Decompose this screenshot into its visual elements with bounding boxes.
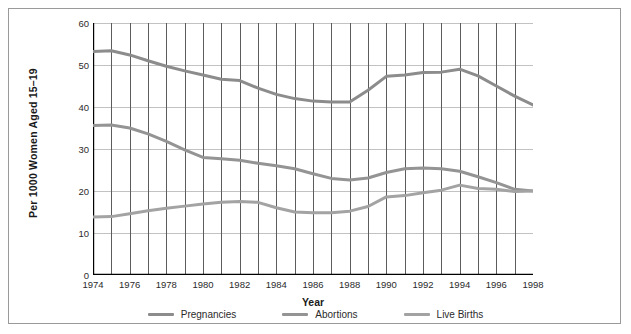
x-axis-tick-label: 1998 [522, 279, 543, 290]
legend-label: Live Births [437, 309, 484, 320]
legend-item[interactable]: Pregnancies [148, 309, 237, 320]
x-axis-tick-label: 1976 [119, 279, 140, 290]
x-axis-tick-label: 1986 [302, 279, 323, 290]
x-axis-tick-label: 1982 [229, 279, 250, 290]
chart-legend: PregnanciesAbortionsLive Births [9, 306, 622, 322]
y-axis-tick-label: 10 [55, 228, 89, 239]
legend-swatch-icon [282, 313, 308, 316]
x-axis-tick-label: 1980 [192, 279, 213, 290]
legend-label: Pregnancies [181, 309, 237, 320]
chart-container: Per 1000 Women Aged 15–19 0102030405060 … [8, 8, 621, 324]
y-axis-tick-label: 40 [55, 102, 89, 113]
x-axis-tick-label: 1984 [266, 279, 287, 290]
x-axis-tick-label: 1992 [412, 279, 433, 290]
x-axis-tick-label: 1990 [376, 279, 397, 290]
y-axis-tick-label: 50 [55, 60, 89, 71]
plot-canvas [93, 23, 533, 275]
legend-swatch-icon [404, 313, 430, 316]
y-axis-title: Per 1000 Women Aged 15–19 [27, 23, 39, 263]
series-lines [93, 23, 533, 275]
y-axis-tick-label: 20 [55, 186, 89, 197]
x-axis-tick-labels: 1974197619781980198219841986198819901992… [93, 279, 533, 295]
legend-item[interactable]: Abortions [282, 309, 357, 320]
legend-label: Abortions [315, 309, 357, 320]
x-axis-tick-label: 1994 [449, 279, 470, 290]
chart-plot-area: Per 1000 Women Aged 15–19 0102030405060 … [9, 9, 622, 325]
y-axis-tick-label: 30 [55, 144, 89, 155]
x-axis-tick-label: 1996 [486, 279, 507, 290]
y-axis-tick-label: 60 [55, 18, 89, 29]
x-axis-tick-label: 1988 [339, 279, 360, 290]
legend-item[interactable]: Live Births [404, 309, 484, 320]
x-axis-tick-label: 1978 [156, 279, 177, 290]
y-axis-tick-labels: 0102030405060 [55, 23, 89, 275]
x-axis-tick-label: 1974 [82, 279, 103, 290]
legend-swatch-icon [148, 313, 174, 316]
